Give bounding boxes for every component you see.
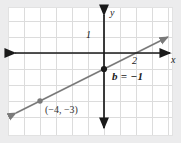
graph-figure: y x 1 2 b = −1 (−4, −3) bbox=[0, 0, 181, 143]
y-intercept-point bbox=[101, 66, 107, 72]
axes bbox=[0, 0, 181, 143]
x-tick-label-2: 2 bbox=[132, 56, 137, 66]
point-coordinate-annotation: (−4, −3) bbox=[45, 105, 78, 115]
x-axis-label: x bbox=[171, 55, 175, 65]
y-axis-label: y bbox=[110, 8, 114, 18]
y-tick-label-1: 1 bbox=[86, 30, 91, 40]
y-intercept-annotation: b = −1 bbox=[112, 71, 143, 82]
